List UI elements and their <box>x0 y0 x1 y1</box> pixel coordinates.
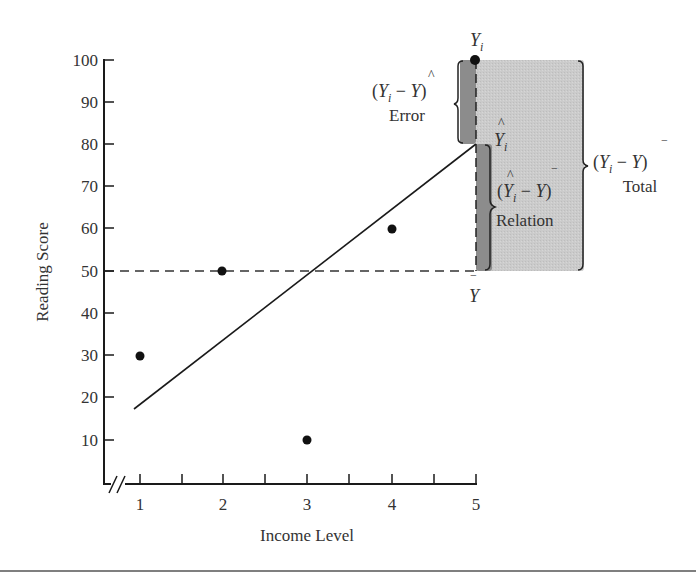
y-tick-label: 90 <box>81 93 98 112</box>
ybar-label: Y <box>469 286 481 306</box>
x-tick-labels: 1 2 3 4 5 <box>136 495 481 514</box>
y-tick-labels: 100 90 80 70 60 50 40 30 20 10 <box>73 51 99 450</box>
y-tick-label: 20 <box>81 388 98 407</box>
data-point <box>388 225 397 234</box>
regression-decomposition-chart: 100 90 80 70 60 50 40 30 20 10 1 2 3 4 5… <box>0 0 696 576</box>
total-expression: (Yi − Y) <box>593 152 648 176</box>
error-annotation: ^ (Yi − Y) Error <box>372 68 435 125</box>
error-bar <box>460 60 476 144</box>
total-label: Total <box>623 177 658 196</box>
total-bar: ‾ <box>661 140 668 155</box>
relation-label: Relation <box>496 211 554 230</box>
y-tick-label: 40 <box>81 304 98 323</box>
yhat-i-hat: ^ <box>498 116 505 131</box>
y-tick-label: 80 <box>81 135 98 154</box>
yi-label: Yi <box>470 30 483 54</box>
x-tick-label: 4 <box>388 495 397 514</box>
total-annotation: ‾ (Yi − Y) Total <box>593 140 668 196</box>
data-point <box>303 436 312 445</box>
x-axis-ticks <box>140 474 476 484</box>
y-tick-label: 30 <box>81 346 98 365</box>
y-tick-label: 100 <box>73 51 99 70</box>
data-points <box>136 55 481 445</box>
regression-line <box>134 144 476 409</box>
y-tick-label: 50 <box>81 262 98 281</box>
x-axis-title: Income Level <box>260 526 354 545</box>
y-tick-label: 70 <box>81 177 98 196</box>
x-tick-label: 2 <box>219 495 228 514</box>
y-tick-label: 10 <box>81 431 98 450</box>
error-hat: ^ <box>428 68 435 83</box>
x-tick-label: 1 <box>136 495 145 514</box>
x-tick-label: 5 <box>472 495 481 514</box>
error-label: Error <box>389 106 425 125</box>
axis-break-icon <box>109 476 125 493</box>
x-tick-label: 3 <box>303 495 312 514</box>
y-axis-ticks <box>104 60 114 440</box>
data-point <box>470 55 480 65</box>
data-point <box>218 267 227 276</box>
data-point <box>136 352 145 361</box>
y-tick-label: 60 <box>81 219 98 238</box>
y-axis-title: Reading Score <box>33 222 52 322</box>
total-variance-box <box>476 60 584 271</box>
error-expression: (Yi − Y) <box>372 81 427 105</box>
